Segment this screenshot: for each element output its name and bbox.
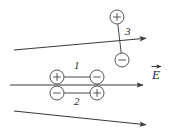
dipole-1-charge-positive <box>50 70 64 84</box>
dipole-3-label: 3 <box>125 26 131 37</box>
dipole-1-label: 1 <box>74 60 80 71</box>
dipoles-in-field-figure: 1 2 3 E <box>0 0 169 137</box>
upper-field-line <box>14 38 146 50</box>
lower-field-line <box>14 111 146 125</box>
dipole-3 <box>110 10 129 67</box>
dipole-3-charge-positive <box>110 10 124 24</box>
dipole-2-label: 2 <box>74 96 80 107</box>
dipole-1-charge-negative <box>90 70 104 84</box>
dipole-2-charge-positive <box>90 86 104 100</box>
dipole-1 <box>50 70 104 84</box>
dipole-2-charge-negative <box>50 86 64 100</box>
dipole-3-charge-negative <box>115 53 129 67</box>
figure-canvas <box>0 0 169 137</box>
electric-field-label: E <box>152 68 160 81</box>
